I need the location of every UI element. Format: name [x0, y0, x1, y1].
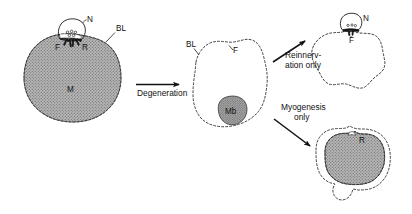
reinnervated-synaptic-vesicles	[347, 24, 357, 27]
panel-original-fiber: N BL F R M	[24, 15, 126, 123]
regenerated-muscle-body	[325, 131, 385, 184]
leader-basal-lamina-degenerated	[194, 49, 199, 56]
arrow-degeneration: Degeneration	[136, 85, 188, 99]
label-folds-reinnervated: F	[349, 36, 354, 45]
arrow-degeneration-label: Degeneration	[137, 88, 188, 98]
arrow-myogenesis: Myogenesis only	[274, 102, 326, 146]
arrow-reinnervation: Reinnerv- ation only	[273, 41, 322, 70]
arrow-myogenesis-line	[274, 119, 310, 146]
label-muscle-original: M	[67, 85, 74, 94]
arrow-myogenesis-label-line2: only	[294, 112, 310, 122]
arrow-reinnervation-label-line2: ation only	[285, 60, 322, 70]
label-nerve-original: N	[87, 15, 93, 24]
diagram-canvas: N BL F R M Degeneration BL F	[0, 0, 412, 214]
label-nerve-reinnervated: N	[363, 14, 369, 23]
label-folds-degenerated: F	[233, 46, 238, 55]
label-folds-original: F	[55, 43, 60, 52]
arrow-myogenesis-label-line1: Myogenesis	[281, 102, 326, 112]
label-receptors-regenerated: R	[359, 136, 365, 145]
leader-basal-lamina-original	[106, 33, 115, 43]
label-myoblast: Mb	[225, 107, 237, 116]
label-basal-lamina-degenerated: BL	[186, 40, 196, 49]
panel-reinnervated-sheath: N F	[312, 13, 385, 88]
panel-degenerated-sheath: BL F Mb	[186, 39, 267, 126]
muscle-fiber-body	[24, 34, 121, 122]
label-basal-lamina-original: BL	[116, 24, 126, 33]
vacant-synaptic-site	[348, 132, 355, 136]
arrow-reinnervation-label-line1: Reinnerv-	[285, 50, 322, 60]
label-receptors-original: R	[82, 43, 88, 52]
panel-regenerated-fiber: R	[316, 126, 390, 200]
leader-nerve-original	[83, 20, 87, 23]
